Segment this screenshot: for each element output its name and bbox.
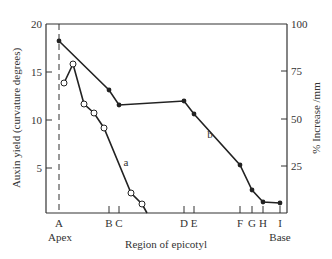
right-tick-50: 50 [291, 113, 303, 125]
axes [46, 24, 287, 213]
series-a [61, 61, 147, 213]
x-tick-H: H [259, 217, 267, 229]
base-label: Base [269, 231, 291, 243]
left-tick-5: 5 [37, 162, 43, 174]
right-y-ticks [281, 71, 287, 166]
left-tick-15: 15 [31, 66, 43, 78]
left-axis-title: Auxin yield (curvature degrees) [10, 48, 23, 189]
x-tick-B: B [105, 217, 112, 229]
x-tick-G: G [248, 217, 256, 229]
series-b-label: b [207, 128, 213, 140]
x-tick-C: C [115, 217, 122, 229]
x-axis-title: Region of epicotyl [125, 238, 207, 250]
x-ticks [109, 206, 280, 213]
x-tick-F: F [237, 217, 243, 229]
series-b [57, 39, 283, 206]
left-y-ticks [46, 72, 52, 168]
x-tick-D: D [180, 217, 188, 229]
right-tick-25: 25 [291, 160, 303, 172]
x-tick-E: E [191, 217, 198, 229]
right-tick-100: 100 [291, 18, 308, 30]
apex-label: Apex [48, 231, 72, 243]
x-tick-I: I [278, 217, 282, 229]
series-a-label: a [124, 156, 129, 168]
left-tick-20: 20 [31, 18, 43, 30]
chart: 20 15 10 5 100 75 50 25 A B C D E F G H … [0, 0, 332, 259]
x-tick-A: A [55, 217, 63, 229]
left-tick-10: 10 [31, 114, 43, 126]
right-axis-title: % Increase /mm [310, 82, 322, 154]
right-tick-75: 75 [291, 65, 303, 77]
